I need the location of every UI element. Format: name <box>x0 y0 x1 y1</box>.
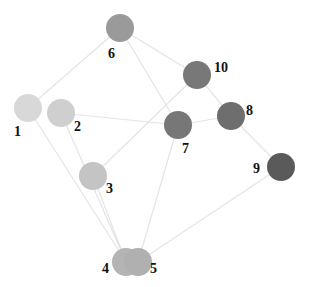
node-9[interactable] <box>267 153 295 181</box>
node-label-4: 4 <box>102 261 109 276</box>
edge-9-5 <box>138 167 281 262</box>
edge-7-5 <box>138 125 178 262</box>
node-8[interactable] <box>217 102 245 130</box>
node-label-7: 7 <box>182 141 189 156</box>
node-label-6: 6 <box>108 46 115 61</box>
labels-layer: 12345678910 <box>14 46 260 276</box>
node-7[interactable] <box>164 111 192 139</box>
node-label-2: 2 <box>74 119 81 134</box>
node-1[interactable] <box>14 94 42 122</box>
node-label-1: 1 <box>14 124 21 139</box>
node-2[interactable] <box>47 99 75 127</box>
node-label-9: 9 <box>253 161 260 176</box>
node-label-8: 8 <box>246 103 253 118</box>
edge-1-6 <box>28 28 120 108</box>
node-6[interactable] <box>106 14 134 42</box>
edges-layer <box>28 28 281 262</box>
node-3[interactable] <box>79 162 107 190</box>
edge-6-7 <box>120 28 178 125</box>
node-label-5: 5 <box>150 261 157 276</box>
node-10[interactable] <box>183 61 211 89</box>
node-label-10: 10 <box>214 60 228 75</box>
node-label-3: 3 <box>106 181 113 196</box>
node-5[interactable] <box>124 248 152 276</box>
nodes-layer <box>14 14 295 276</box>
network-graph: 12345678910 <box>0 0 310 287</box>
